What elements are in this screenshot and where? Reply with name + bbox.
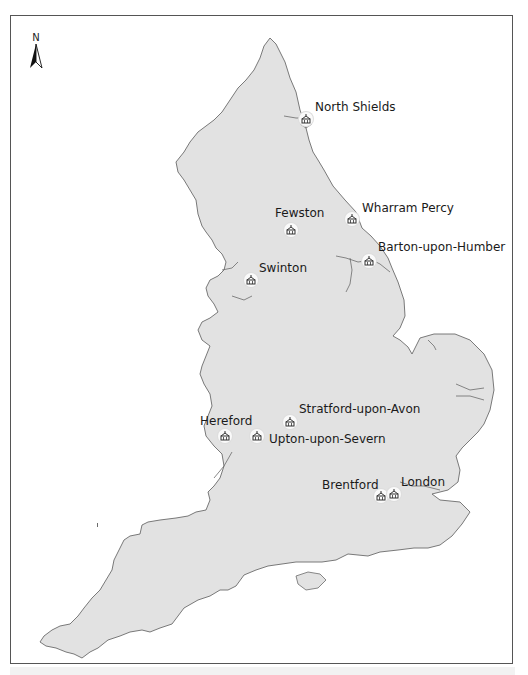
site-label: Swinton: [259, 261, 307, 275]
church-icon: [252, 431, 262, 441]
church-icon: [301, 114, 311, 124]
site-label: London: [401, 475, 445, 489]
site-marker[interactable]: [387, 487, 401, 501]
site-marker[interactable]: [345, 212, 359, 226]
site-label: North Shields: [315, 100, 396, 114]
site-marker[interactable]: [283, 415, 297, 429]
site-label: Barton-upon-Humber: [378, 240, 505, 254]
site-label: Stratford-upon-Avon: [299, 402, 420, 416]
north-arrow-icon: [28, 32, 44, 72]
site-label: Upton-upon-Severn: [269, 432, 386, 446]
site-label: Wharram Percy: [362, 201, 454, 215]
church-icon: [285, 417, 295, 427]
isle-of-wight: [296, 572, 326, 590]
site-marker[interactable]: [299, 112, 313, 126]
site-label: Hereford: [200, 414, 252, 428]
church-icon: [246, 275, 256, 285]
site-marker[interactable]: [244, 273, 258, 287]
site-marker[interactable]: [284, 223, 298, 237]
church-icon: [389, 489, 399, 499]
england-landmass: [40, 38, 494, 658]
north-arrow: N: [28, 32, 44, 72]
site-marker[interactable]: [250, 429, 264, 443]
lundy-island: [97, 523, 98, 527]
church-icon: [220, 431, 230, 441]
site-marker[interactable]: [362, 254, 376, 268]
site-marker[interactable]: [218, 429, 232, 443]
church-icon: [376, 491, 386, 501]
site-label: Brentford: [322, 478, 379, 492]
england-map: [0, 0, 528, 675]
church-icon: [286, 225, 296, 235]
church-icon: [364, 256, 374, 266]
site-label: Fewston: [275, 206, 324, 220]
church-icon: [347, 214, 357, 224]
